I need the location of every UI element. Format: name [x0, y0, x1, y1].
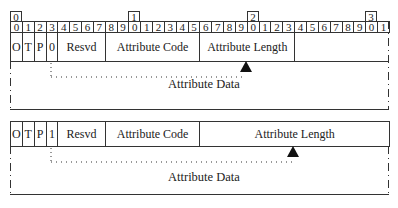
short-length-pointer: [51, 61, 252, 77]
arrow-up-icon: [287, 146, 299, 157]
extended-data-box: [10, 146, 389, 195]
short-data-box: [10, 21, 389, 110]
extended-length-pointer: [51, 146, 299, 162]
diagram-lines: [0, 0, 398, 208]
arrow-up-icon: [240, 61, 252, 72]
